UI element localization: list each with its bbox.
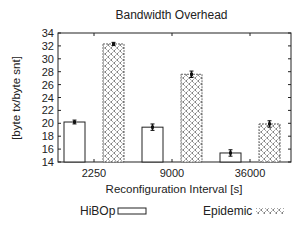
y-axis-label: [byte tx/byte snt] (10, 56, 22, 140)
legend: HiBOpEpidemic (80, 204, 284, 218)
legend-swatch-epidemic (256, 208, 284, 214)
y-tick-label: 16 (42, 143, 54, 155)
bar-hibop-9000 (142, 127, 163, 162)
y-tick-label: 14 (42, 156, 54, 168)
bar-epidemic-9000 (181, 74, 202, 162)
legend-swatch-hibop (118, 208, 146, 214)
y-tick-label: 20 (42, 117, 54, 129)
y-tick-label: 26 (42, 79, 54, 91)
x-tick-label: 9000 (160, 167, 184, 179)
x-tick-label: 36000 (235, 167, 266, 179)
x-axis-label: Reconfiguration Interval [s] (106, 183, 243, 195)
x-tick-label: 2250 (82, 167, 106, 179)
y-tick-label: 30 (42, 53, 54, 65)
y-tick-label: 32 (42, 40, 54, 52)
bar-hibop-2250 (64, 122, 85, 162)
y-tick-label: 24 (42, 92, 54, 104)
legend-label-hibop: HiBOp (80, 204, 116, 218)
legend-label-epidemic: Epidemic (203, 204, 252, 218)
bar-chart: 1416182022242628303234 2250900036000 [by… (0, 0, 301, 229)
bar-epidemic-36000 (259, 124, 280, 162)
plot-area (58, 33, 291, 162)
y-tick-label: 18 (42, 130, 54, 142)
y-tick-label: 28 (42, 66, 54, 78)
bars (64, 42, 280, 162)
y-tick-label: 34 (42, 27, 54, 39)
y-tick-label: 22 (42, 104, 54, 116)
bar-epidemic-2250 (103, 44, 124, 162)
